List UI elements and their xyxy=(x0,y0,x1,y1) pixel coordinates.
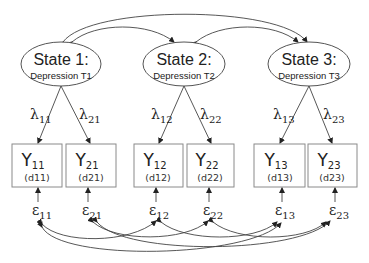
loading-label: λ21 xyxy=(79,106,101,125)
loading-label: λ11 xyxy=(30,106,52,125)
state-subtitle: Depression T3 xyxy=(278,70,340,81)
indicator-Y23: Y23 (d23) xyxy=(308,144,357,187)
cov-arc-state1-state3 xyxy=(63,14,307,42)
indicator-code: (d11) xyxy=(24,172,50,183)
cov-arc-state1-state2 xyxy=(72,27,174,42)
residual-label: ε22 xyxy=(203,202,223,221)
loading-label: λ23 xyxy=(323,106,345,125)
residual-arrows xyxy=(38,188,335,202)
cov-arc-e21-e23 xyxy=(97,221,330,247)
residual-label: ε13 xyxy=(275,202,295,221)
state-subtitle: Depression T1 xyxy=(30,70,92,81)
cov-arc-state2-state3 xyxy=(196,27,298,42)
loading-label: λ22 xyxy=(200,106,222,125)
state-title: State 1: xyxy=(33,51,88,68)
indicator-Y22: Y22 (d22) xyxy=(187,144,234,187)
cov-arc-e22-e23 xyxy=(213,222,326,237)
residual-labels: ε11 ε21 ε12 ε22 ε13 ε23 xyxy=(32,202,349,221)
indicator-boxes: Y11 (d11) Y21 (d21) Y12 (d12) Y22 (d22) … xyxy=(12,144,357,187)
indicator-Y13: Y13 (d13) xyxy=(254,144,305,187)
latent-state-2: State 2: Depression T2 xyxy=(143,42,225,86)
indicator-code: (d12) xyxy=(145,172,171,183)
state-subtitle: Depression T2 xyxy=(153,70,215,81)
loading-label: λ12 xyxy=(151,106,173,125)
latent-state-3: State 3: Depression T3 xyxy=(268,42,350,86)
indicator-code: (d13) xyxy=(267,172,293,183)
latent-state-1: State 1: Depression T1 xyxy=(21,42,101,86)
residual-covariance-arcs xyxy=(42,221,330,251)
residual-label: ε12 xyxy=(149,202,169,221)
indicator-code: (d21) xyxy=(78,172,104,183)
indicator-code: (d22) xyxy=(197,172,223,183)
cov-arc-e11-e13 xyxy=(42,223,281,251)
residual-label: ε11 xyxy=(32,202,52,221)
residual-label: ε21 xyxy=(82,202,102,221)
state-title: State 3: xyxy=(281,51,336,68)
indicator-Y21: Y21 (d21) xyxy=(66,144,116,187)
state-covariance-arcs xyxy=(63,14,307,42)
cov-arc-e12-e13 xyxy=(161,222,277,237)
state-title: State 2: xyxy=(156,51,211,68)
residual-label: ε23 xyxy=(329,202,349,221)
indicator-Y12: Y12 (d12) xyxy=(134,144,183,187)
indicator-code: (d23) xyxy=(319,172,345,183)
loading-label: λ13 xyxy=(273,106,295,125)
sem-diagram: State 1: Depression T1 State 2: Depressi… xyxy=(0,0,369,263)
indicator-Y11: Y11 (d11) xyxy=(12,144,62,187)
